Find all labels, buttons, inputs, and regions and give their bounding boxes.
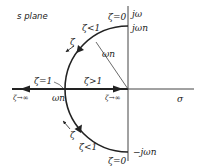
zeta-gt1-label: ζ>1 <box>84 76 102 86</box>
left-point-label: ωn <box>52 93 65 103</box>
arrow-right-icon <box>113 86 123 93</box>
zeta-lt1-top-label: ζ<1 <box>82 23 100 33</box>
zeta-inf-left-label: ζ→∞ <box>13 94 29 102</box>
arrow-left-icon <box>20 86 30 93</box>
zeta-direction-bottom-label: ζ <box>70 130 76 140</box>
zeta-eq1-label: ζ=1 <box>34 76 52 86</box>
radius-label: ωn <box>102 49 115 59</box>
zeta-inf-right-label: ζ→∞ <box>105 94 121 102</box>
arrow-upper-icon <box>77 45 85 53</box>
top-point-label: jωn <box>130 23 148 33</box>
zeta-direction-top-label: ζ <box>70 37 76 47</box>
real-axis-label: σ <box>177 94 184 104</box>
bottom-point-label: −jωn <box>133 147 157 157</box>
zeta-eq1-leader <box>54 82 63 88</box>
plane-title: s plane <box>17 11 48 21</box>
zeta-zero-bottom-label: ζ=0 <box>108 156 126 166</box>
imag-axis-label: jω <box>130 9 143 19</box>
arrow-lower-icon <box>75 125 83 134</box>
s-plane-diagram: s plane jω σ jωn −jωn ωn ωn ζ=0 ζ=0 ζ<1 … <box>0 0 200 168</box>
zeta-lt1-bottom-label: ζ<1 <box>79 142 97 152</box>
zeta-zero-top-label: ζ=0 <box>108 12 126 22</box>
zeta-direction-bottom-arrow <box>64 122 70 129</box>
